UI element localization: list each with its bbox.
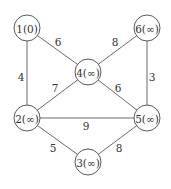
node-2: 2(∞)	[14, 105, 40, 131]
node-label: 2(∞)	[15, 113, 39, 125]
edge-weight-1-4: 6	[55, 36, 62, 48]
edge-weight-1-2: 4	[18, 71, 25, 83]
edge-weight-4-2: 7	[52, 82, 59, 94]
graph-diagram: 684376958 1(0)6(∞)4(∞)2(∞)5(∞)3(∞)	[0, 0, 171, 189]
node-1: 1(0)	[14, 15, 40, 41]
edges-layer	[27, 28, 147, 162]
edge-weight-6-5: 3	[149, 71, 156, 83]
node-label: 4(∞)	[76, 67, 100, 79]
edge-weight-6-4: 8	[112, 36, 119, 48]
node-label: 3(∞)	[76, 157, 100, 169]
edge-weight-4-5: 6	[115, 82, 122, 94]
edge-weight-5-3: 8	[116, 142, 123, 154]
node-label: 6(∞)	[135, 23, 159, 35]
node-6: 6(∞)	[134, 15, 160, 41]
node-label: 5(∞)	[135, 113, 159, 125]
nodes-layer: 1(0)6(∞)4(∞)2(∞)5(∞)3(∞)	[14, 15, 160, 175]
edge-weight-2-3: 5	[50, 142, 57, 154]
weights-layer: 684376958	[18, 36, 156, 154]
node-4: 4(∞)	[75, 59, 101, 85]
node-5: 5(∞)	[134, 105, 160, 131]
edge-weight-2-5: 9	[83, 120, 90, 132]
node-3: 3(∞)	[75, 149, 101, 175]
node-label: 1(0)	[16, 23, 38, 35]
